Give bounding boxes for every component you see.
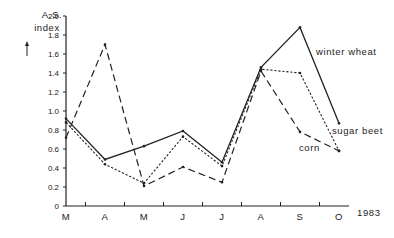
data-point: [143, 145, 146, 148]
up-arrow-icon: [25, 41, 29, 56]
data-point: [260, 70, 263, 73]
series-label-sugar-beet: sugar beet: [332, 125, 383, 136]
series-label-corn: corn: [299, 142, 320, 153]
data-point: [104, 43, 107, 46]
y-tick-label: 1.2: [48, 88, 60, 97]
axes: 00.20.40.60.81.01.21.41.61.82.0MAMJJASO: [48, 12, 349, 222]
y-tick-label: 0.4: [48, 164, 60, 173]
y-tick-label: 0: [55, 202, 60, 211]
data-point: [299, 72, 302, 75]
year-label: 1983: [357, 207, 381, 218]
series-line-corn: [66, 45, 339, 187]
y-tick-label: 0.2: [48, 183, 60, 192]
data-point: [65, 121, 68, 124]
data-point: [182, 166, 185, 169]
x-tick-label: S: [297, 211, 304, 222]
data-point: [65, 117, 68, 120]
series-label-winter-wheat: winter wheat: [315, 46, 377, 57]
series-line-sugar-beet: [66, 69, 339, 183]
x-tick-label: A: [102, 211, 109, 222]
data-point: [182, 135, 185, 138]
data-point: [104, 158, 107, 161]
data-point: [221, 181, 224, 184]
x-tick-label: M: [140, 211, 149, 222]
y-tick-label: 1.4: [48, 69, 60, 78]
data-point: [182, 130, 185, 133]
data-point: [338, 150, 341, 153]
y-tick-label: 1.0: [48, 107, 60, 116]
data-point: [299, 26, 302, 29]
data-point: [143, 185, 146, 188]
data-point: [104, 163, 107, 166]
data-point: [221, 165, 224, 168]
x-tick-label: J: [219, 211, 224, 222]
y-tick-label: 0.8: [48, 126, 60, 135]
x-tick-label: A: [258, 211, 265, 222]
x-tick-label: M: [62, 211, 71, 222]
line-chart: 00.20.40.60.81.01.21.41.61.82.0MAMJJASO …: [0, 0, 394, 238]
x-tick-label: O: [335, 211, 343, 222]
data-point: [299, 131, 302, 134]
y-tick-label: 0.6: [48, 145, 60, 154]
data-point: [65, 136, 68, 139]
y-axis-label-line2: index: [34, 22, 60, 33]
x-tick-label: J: [180, 211, 185, 222]
y-axis-label-line1: A.S.: [42, 9, 62, 20]
series-lines: [65, 26, 341, 187]
y-tick-label: 1.6: [48, 50, 60, 59]
